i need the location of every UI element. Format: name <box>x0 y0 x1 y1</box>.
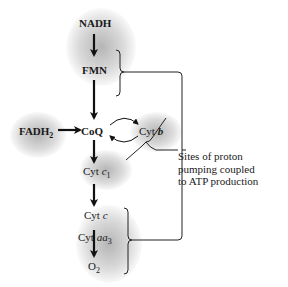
diagram-canvas <box>0 0 288 287</box>
fmn-label: FMN <box>82 64 107 76</box>
coq-cytb-cycle <box>110 118 138 142</box>
brackets <box>116 50 186 274</box>
cytb-label: Cyt b <box>139 125 163 137</box>
cytaa3-sub: 3 <box>108 237 112 246</box>
annotation-line-3: to ATP production <box>178 175 258 188</box>
fadh2-base: FADH <box>19 125 49 137</box>
cytc1-sub: 1 <box>107 171 111 180</box>
cytaa3-label: Cyt aa3 <box>78 231 112 248</box>
fadh2-label: FADH2 <box>19 125 53 142</box>
cytc-prefix: Cyt <box>84 209 103 221</box>
cytaa3-prefix: Cyt <box>78 231 97 243</box>
cytb-italic: b <box>158 125 164 137</box>
coq-label: CoQ <box>81 125 103 137</box>
cytaa3-italic: aa <box>97 231 108 243</box>
o2-label: O2 <box>88 260 100 277</box>
cytc-label: Cyt c <box>84 209 108 221</box>
annotation-line-1: Sites of proton <box>178 150 258 163</box>
cytc-italic: c <box>103 209 108 221</box>
proton-pumping-annotation: Sites of proton pumping coupled to ATP p… <box>178 150 258 188</box>
cytc1-prefix: Cyt <box>83 165 102 177</box>
annotation-line-2: pumping coupled <box>178 163 258 176</box>
cytb-prefix: Cyt <box>139 125 158 137</box>
cytc1-label: Cyt c1 <box>83 165 111 182</box>
o2-sub: 2 <box>96 266 100 275</box>
fadh2-sub: 2 <box>49 131 53 140</box>
o2-base: O <box>88 260 96 272</box>
nadh-label: NADH <box>79 17 111 29</box>
